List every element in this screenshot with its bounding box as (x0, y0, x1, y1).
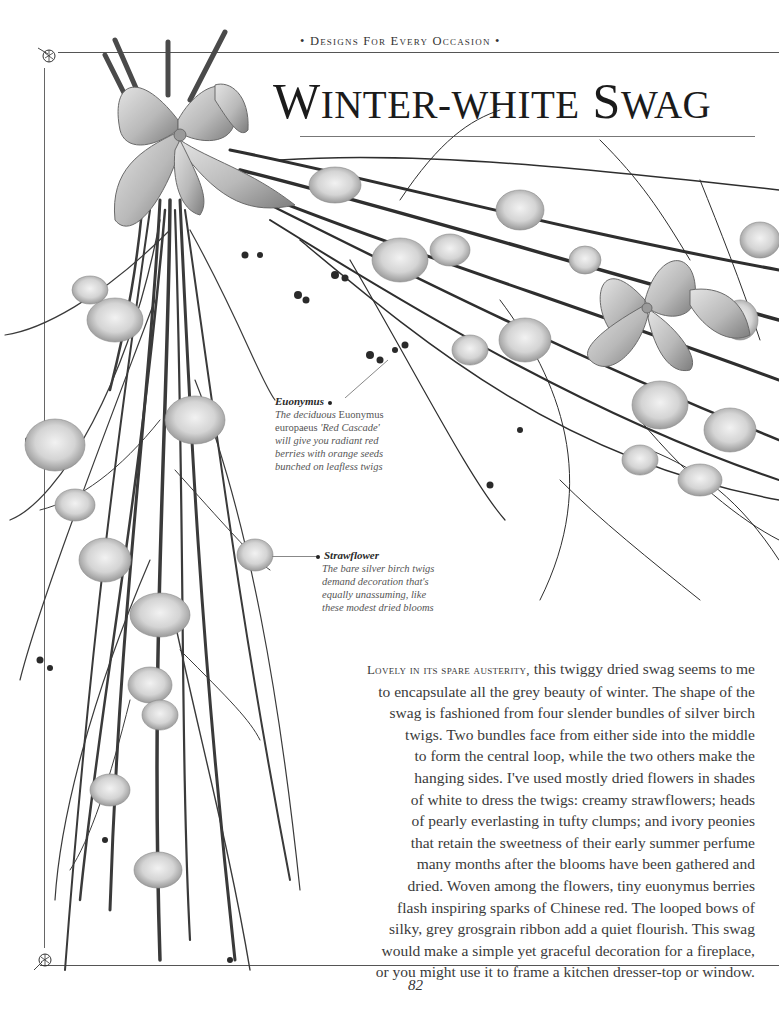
body-line: or you might use it to frame a kitchen d… (290, 961, 755, 983)
caption-heading: Strawflower (324, 549, 379, 561)
running-head-text: Designs For Every Occasion (310, 34, 491, 48)
body-line: hanging sides. I've used mostly dried fl… (290, 767, 755, 789)
flower-sprig-icon-top (36, 44, 58, 66)
body-line: to encapsulate all the grey beauty of wi… (290, 681, 755, 703)
caption-line: The bare silver birch twigs (322, 562, 472, 575)
caption-line: europaeus (275, 422, 320, 433)
euonymus-leader-line (343, 358, 403, 398)
strawflower-leader (272, 556, 318, 557)
caption-strawflower: Strawflower The bare silver birch twigs … (322, 549, 472, 614)
caption-line: will give you radiant red (275, 434, 425, 447)
body-line: this twiggy dried swag seems to me (530, 660, 755, 677)
body-line: would make a simple yet graceful decorat… (290, 940, 755, 962)
caption-line: bunched on leafless twigs (275, 460, 425, 473)
caption-line: The deciduous (275, 409, 339, 420)
body-line: twigs. Two bundles face from either side… (290, 724, 755, 746)
caption-line: Euonymus (339, 409, 384, 420)
body-paragraph: Lovely in its spare austerity, this twig… (290, 658, 755, 983)
body-line: that retain the sweetness of their early… (290, 832, 755, 854)
title-rest-1: INTER-WHITE (321, 83, 580, 126)
body-line: swag is fashioned from four slender bund… (290, 702, 755, 724)
caption-heading: Euonymus (275, 395, 324, 407)
body-line: of white to dress the twigs: creamy stra… (290, 789, 755, 811)
running-head: • Designs For Every Occasion • (300, 34, 501, 49)
body-line: dried. Woven among the flowers, tiny euo… (290, 875, 755, 897)
page-number: 82 (408, 977, 423, 994)
body-line: silky, grey grosgrain ribbon add a quiet… (290, 918, 755, 940)
body-line: many months after the blooms have been g… (290, 853, 755, 875)
caption-line: demand decoration that's (322, 575, 472, 588)
body-line: of pearly everlasting in tufty clumps; a… (290, 810, 755, 832)
body-line: flash inspiring sparks of Chinese red. T… (290, 897, 755, 919)
bullet-right: • (495, 34, 501, 48)
caption-line: equally unassuming, like (322, 588, 472, 601)
caption-line: 'Red Cascade' (320, 422, 380, 433)
title-rest-2: WAG (621, 83, 711, 126)
caption-line: these modest dried blooms (322, 601, 472, 614)
title-cap-2: S (593, 73, 621, 129)
caption-euonymus: Euonymus The deciduous Euonymus europaeu… (275, 395, 425, 473)
caption-line: berries with orange seeds (275, 447, 425, 460)
bullet-icon (328, 401, 332, 405)
ribbon-bow-right (587, 261, 750, 371)
body-line: to form the central loop, while the two … (290, 745, 755, 767)
bullet-icon (316, 555, 320, 559)
page-title: WINTER-WHITE SWAG (273, 76, 711, 126)
ribbon-bow-top (114, 84, 295, 226)
lead-in: Lovely in its spare austerity, (367, 662, 530, 677)
flower-sprig-icon-bottom (32, 950, 54, 972)
bullet-left: • (300, 34, 306, 48)
title-cap-1: W (273, 73, 321, 129)
